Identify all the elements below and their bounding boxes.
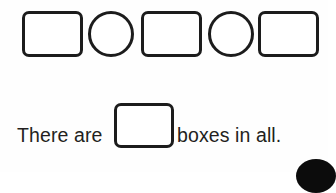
square-shape-2 — [141, 11, 202, 57]
sentence-text-before: There are — [17, 124, 102, 146]
black-circle-mark — [296, 159, 336, 193]
sentence-text-after: boxes in all. — [177, 124, 281, 146]
answer-input-box[interactable] — [114, 103, 174, 148]
answer-sentence: There are boxes in all. — [0, 100, 328, 152]
circle-shape-2 — [208, 11, 254, 57]
square-shape-3 — [258, 11, 319, 57]
counting-shapes-row — [20, 11, 320, 59]
circle-shape-1 — [88, 11, 134, 57]
square-shape-1 — [22, 11, 83, 57]
